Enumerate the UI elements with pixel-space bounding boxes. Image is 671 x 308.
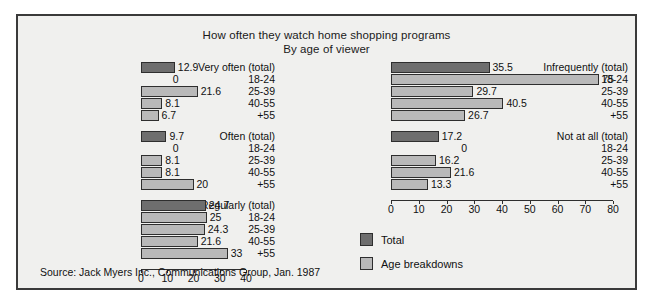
- bar-value-label: 0: [173, 143, 179, 154]
- bar-plot-area: 25: [141, 212, 246, 223]
- bar-plot-area: 21.6: [391, 167, 613, 178]
- bar-plot-area: 8.1: [141, 98, 246, 109]
- bar-row: 40-558.1: [28, 98, 278, 109]
- bar-value-label: 33: [228, 248, 243, 259]
- bar-plot-area: 13.3: [391, 179, 613, 190]
- bar-plot-area: 20: [141, 179, 246, 190]
- bar-group: Not at all (total)17.218-24025-3916.240-…: [286, 131, 631, 190]
- bar-plot-area: 26.7: [391, 110, 613, 121]
- bar-row: 25-398.1: [28, 155, 278, 166]
- bar-value-label: 21.6: [198, 236, 221, 247]
- bar-row: Often (total)9.7: [28, 131, 278, 142]
- bar-value-label: 0: [173, 74, 179, 85]
- bar-value-label: 12.9: [175, 62, 198, 73]
- source-note: Source: Jack Myers Inc., Communications …: [40, 266, 320, 278]
- bar-group: Regularly (total)24.718-242525-3924.340-…: [28, 200, 278, 259]
- bar-row: 25-3921.6: [28, 86, 278, 97]
- bar-row: 40-5521.6: [28, 236, 278, 247]
- bar-plot-area: 24.3: [141, 224, 246, 235]
- bar-value-label: 13.3: [428, 179, 451, 190]
- chart-title-block: How often they watch home shopping progr…: [18, 28, 635, 56]
- bar-value-label: 21.6: [198, 86, 221, 97]
- bar: [141, 62, 175, 73]
- bar-value-label: 25: [207, 212, 222, 223]
- bar-value-label: 24.7: [206, 200, 229, 211]
- bar-value-label: 0: [461, 143, 467, 154]
- bar: [391, 98, 503, 109]
- bar: [391, 74, 599, 85]
- bar-plot-area: 9.7: [141, 131, 246, 142]
- bar-group: Very often (total)12.918-24025-3921.640-…: [28, 62, 278, 121]
- bar-value-label: 26.7: [465, 110, 488, 121]
- bar-plot-area: 75: [391, 74, 613, 85]
- bar-row: +5520: [28, 179, 278, 190]
- axis-tick-label: 70: [579, 203, 591, 215]
- bar-row: +5533: [28, 248, 278, 259]
- bar-plot-area: 21.6: [141, 236, 246, 247]
- legend-swatch-age-breakdowns: [360, 257, 373, 270]
- bar: [391, 155, 436, 166]
- bar-row: 25-3916.2: [286, 155, 631, 166]
- axis-tick-label: 10: [413, 203, 425, 215]
- bar-value-label: 8.1: [162, 155, 180, 166]
- bar-plot-area: 6.7: [141, 110, 246, 121]
- bar-row: 18-240: [28, 74, 278, 85]
- bar-plot-area: 40.5: [391, 98, 613, 109]
- axis-tick-label: 20: [441, 203, 453, 215]
- bar-row: Infrequently (total)35.5: [286, 62, 631, 73]
- bar-row: 25-3924.3: [28, 224, 278, 235]
- axis-tick-label: 80: [607, 203, 619, 215]
- chart-column-left: Very often (total)12.918-24025-3921.640-…: [28, 62, 278, 285]
- bar-row: 40-5521.6: [286, 167, 631, 178]
- bar-plot-area: 24.7: [141, 200, 246, 211]
- bar-row: 18-2475: [286, 74, 631, 85]
- bar: [141, 98, 162, 109]
- legend-label-age-breakdowns: Age breakdowns: [381, 257, 463, 271]
- axis-tick-label: 50: [524, 203, 536, 215]
- bar-group: Often (total)9.718-24025-398.140-558.1+5…: [28, 131, 278, 190]
- chart-panel: How often they watch home shopping progr…: [16, 14, 637, 290]
- bar-row: +556.7: [28, 110, 278, 121]
- bar: [391, 86, 473, 97]
- bar: [391, 179, 428, 190]
- bar: [141, 179, 194, 190]
- bar-group: Infrequently (total)35.518-247525-3929.7…: [286, 62, 631, 121]
- bar-value-label: 20: [194, 179, 209, 190]
- bar-value-label: 40.5: [503, 98, 526, 109]
- bar: [141, 200, 206, 211]
- bar-row: 40-5540.5: [286, 98, 631, 109]
- bar-row: Regularly (total)24.7: [28, 200, 278, 211]
- legend-swatch-total: [360, 233, 373, 246]
- bar-row: Not at all (total)17.2: [286, 131, 631, 142]
- bar-plot-area: 35.5: [391, 62, 613, 73]
- bar-plot-area: 0: [141, 143, 246, 154]
- axis-tick-label: 60: [552, 203, 564, 215]
- bar: [141, 131, 166, 142]
- bar-plot-area: 17.2: [391, 131, 613, 142]
- chart-column-right: Infrequently (total)35.518-247525-3929.7…: [286, 62, 631, 216]
- bar-plot-area: 8.1: [141, 155, 246, 166]
- bar-row: +5513.3: [286, 179, 631, 190]
- bar-row: 18-240: [28, 143, 278, 154]
- bar-value-label: 8.1: [162, 167, 180, 178]
- bar-value-label: 75: [599, 74, 614, 85]
- bar: [141, 212, 207, 223]
- bar-plot-area: 0: [141, 74, 246, 85]
- bar: [141, 224, 205, 235]
- bar: [141, 110, 159, 121]
- x-axis: 01020304050607080: [391, 200, 613, 216]
- bar: [391, 62, 490, 73]
- bar-row: 25-3929.7: [286, 86, 631, 97]
- bar-value-label: 8.1: [162, 98, 180, 109]
- bar: [141, 167, 162, 178]
- bar-row: Very often (total)12.9: [28, 62, 278, 73]
- bar-value-label: 21.6: [451, 167, 474, 178]
- bar: [391, 167, 451, 178]
- bar-value-label: 9.7: [166, 131, 184, 142]
- bar-plot-area: 29.7: [391, 86, 613, 97]
- axis-tick-label: 0: [388, 203, 394, 215]
- bar-plot-area: 21.6: [141, 86, 246, 97]
- bar: [141, 248, 228, 259]
- bar-row: +5526.7: [286, 110, 631, 121]
- bar-value-label: 29.7: [473, 86, 496, 97]
